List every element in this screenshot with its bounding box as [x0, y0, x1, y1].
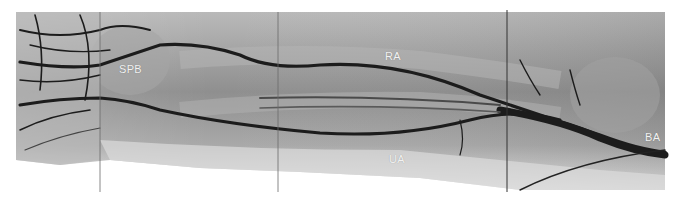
- label-ua: UA: [389, 153, 405, 165]
- angiogram-image: SPB RA UA BA: [0, 0, 682, 202]
- label-spb: SPB: [119, 63, 142, 75]
- label-ba: BA: [645, 131, 660, 143]
- label-ra: RA: [385, 50, 401, 62]
- forearm-tissue: [16, 12, 665, 190]
- angiogram-graphic: [0, 0, 682, 202]
